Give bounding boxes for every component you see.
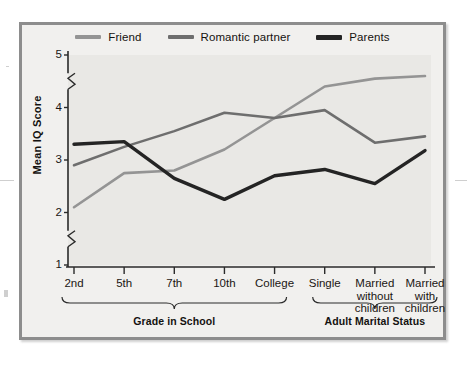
- group-label: Grade in School: [84, 315, 264, 327]
- y-tick-label: 2: [46, 206, 62, 218]
- y-tick-label: 5: [46, 48, 62, 60]
- y-tick-label: 1: [46, 258, 62, 270]
- plot-background: [68, 55, 431, 265]
- group-bracket: [62, 297, 287, 309]
- chart-figure: Friend Romantic partner Parents Mean IQ …: [19, 22, 446, 340]
- y-tick-label: 4: [46, 101, 62, 113]
- x-tick-label: Married with children: [394, 277, 456, 315]
- y-tick-label: 3: [46, 153, 62, 165]
- plot-frame: [68, 55, 431, 265]
- group-label: Adult Marital Status: [285, 315, 465, 327]
